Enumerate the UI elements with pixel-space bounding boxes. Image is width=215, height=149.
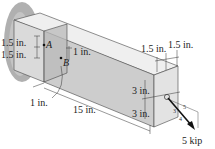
point-b-label: B <box>63 57 69 68</box>
dim-b-offset: 1 in. <box>73 46 91 57</box>
beam-end-face <box>154 66 178 127</box>
point-a-label: A <box>45 39 53 50</box>
dim-end-width-left: 1.5 in. <box>141 43 166 54</box>
dim-end-width-right: 1.5 in. <box>168 39 193 50</box>
load-label: 5 kip <box>182 135 202 146</box>
point-a-marker <box>43 44 46 47</box>
dim-a-top: 1.5 in. <box>1 37 26 48</box>
section-plane <box>44 24 67 82</box>
slope-hyp: 5 <box>183 104 186 110</box>
dim-end-height-top: 3 in. <box>132 85 150 96</box>
dim-a-bottom: 1.5 in. <box>1 49 26 60</box>
beam-diagram: A B 1.5 in. 1.5 in. 1 in. 1 in. 15 in. 1… <box>0 0 215 149</box>
slope-leg-a: 3 <box>173 108 176 114</box>
dim-section-distance: 1 in. <box>30 97 48 108</box>
dim-end-height-bottom: 3 in. <box>132 108 150 119</box>
point-b-marker <box>60 57 63 60</box>
slope-leg-b: 4 <box>179 116 182 122</box>
dim-beam-length: 15 in. <box>73 104 96 115</box>
